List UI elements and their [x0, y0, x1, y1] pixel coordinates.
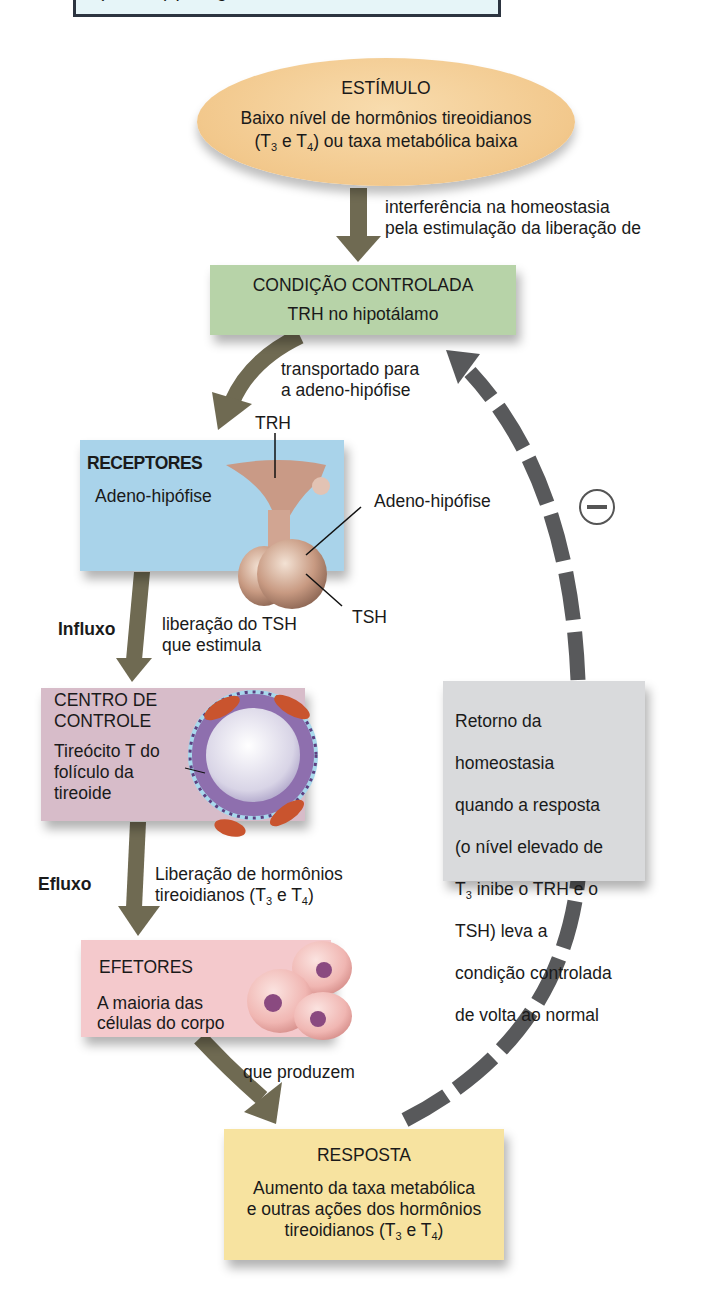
label-eff-to-resp: que produzem: [243, 1062, 355, 1083]
response-node: RESPOSTA Aumento da taxa metabólica e ou…: [224, 1129, 504, 1260]
response-desc: Aumento da taxa metabólica e outras açõe…: [224, 1178, 504, 1241]
response-title: RESPOSTA: [224, 1145, 504, 1166]
body-cells-illustration: [0, 0, 711, 1294]
feedback-text: Retorno da homeostasia quando a resposta…: [455, 690, 612, 1047]
feedback-node: Retorno da homeostasia quando a resposta…: [443, 681, 645, 881]
